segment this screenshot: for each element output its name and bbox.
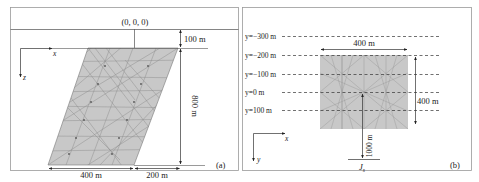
svg-text:400 m: 400 m: [417, 96, 439, 106]
y-level-label: y=−300 m: [245, 32, 276, 41]
y-level-labels: y=−300 m y=−200 m y=−100 m y=0 m y=100 m: [245, 32, 276, 115]
x-axis-label-a: x: [52, 49, 57, 58]
svg-text:400 m: 400 m: [353, 38, 375, 48]
origin-label: (0, 0, 0): [122, 17, 149, 27]
x-axis-label-b: x: [284, 134, 289, 143]
panel-b-tag: (b): [450, 160, 460, 170]
panel-a-tag: (a): [216, 160, 226, 170]
panel-b: y=−300 m y=−200 m y=−100 m y=0 m y=100 m…: [243, 8, 472, 174]
source-label: Js: [359, 162, 365, 173]
dim-100m-a: 100 m: [181, 30, 206, 47]
y-level-label: y=100 m: [245, 106, 272, 115]
panel-a: (0, 0, 0): [11, 8, 239, 182]
y-level-label: y=−100 m: [245, 70, 276, 79]
svg-text:200 m: 200 m: [146, 170, 168, 180]
svg-text:800 m: 800 m: [190, 95, 200, 117]
dim-400m-width-b: 400 m: [321, 38, 407, 50]
svg-text:400 m: 400 m: [80, 170, 102, 180]
figure: (0, 0, 0): [0, 0, 479, 181]
y-level-label: y=0 m: [245, 88, 265, 97]
z-axis-label-a: z: [22, 73, 26, 82]
dim-400m-height-b: 400 m: [416, 57, 439, 124]
axes-b: x y: [254, 134, 290, 165]
y-level-label: y=−200 m: [245, 51, 276, 60]
fault-mesh-b: [320, 55, 408, 129]
svg-text:100 m: 100 m: [184, 34, 206, 44]
y-axis-label-b: y: [256, 155, 261, 164]
fault-mesh-a: [40, 40, 196, 181]
svg-text:1000 m: 1000 m: [365, 134, 374, 157]
